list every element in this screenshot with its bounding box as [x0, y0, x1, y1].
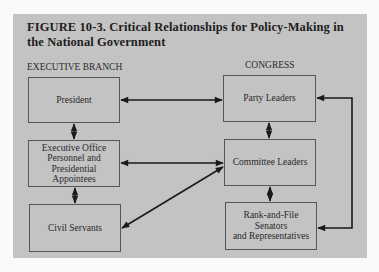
- edge-civil-committee: [122, 167, 223, 228]
- connector-arrows: [0, 0, 379, 272]
- edge-party-rank: [317, 98, 352, 228]
